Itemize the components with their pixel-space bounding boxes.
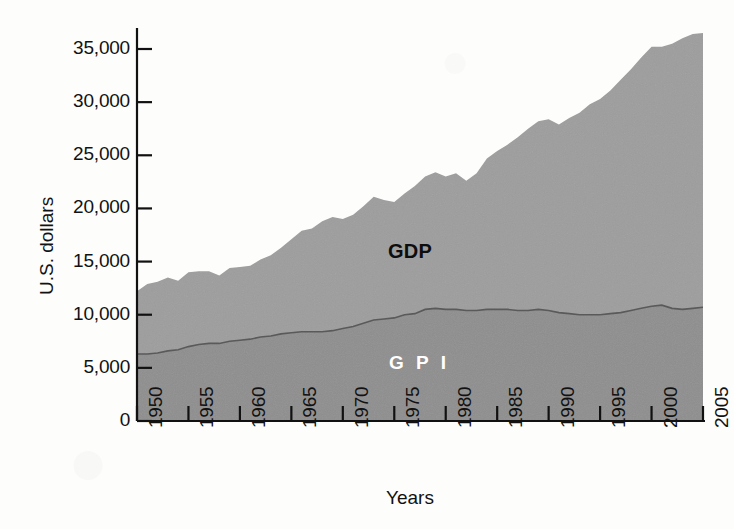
x-tick-label: 1995 (608, 387, 630, 428)
x-axis-title: Years (386, 487, 434, 509)
y-axis-title: U.S. dollars (36, 197, 58, 295)
x-tick-label: 1965 (299, 387, 321, 428)
chart-figure: 05,00010,00015,00020,00025,00030,00035,0… (0, 0, 734, 529)
x-tick-label: 2000 (660, 387, 682, 428)
y-tick-label: 25,000 (73, 143, 130, 165)
y-tick-label: 5,000 (83, 356, 130, 378)
y-tick-label: 30,000 (73, 90, 130, 112)
gpi-series-label: G P I (389, 352, 449, 374)
x-tick-label: 1955 (196, 387, 218, 428)
x-tick-label: 2005 (711, 387, 733, 428)
y-tick-label: 10,000 (73, 303, 130, 325)
y-tick-label: 35,000 (73, 37, 130, 59)
x-tick-label: 1950 (145, 387, 167, 428)
x-tick-label: 1980 (454, 387, 476, 428)
y-tick-label: 0 (120, 409, 130, 431)
x-tick-label: 1985 (505, 387, 527, 428)
y-tick-label: 20,000 (73, 196, 130, 218)
gdp-series-label: GDP (388, 240, 432, 263)
x-tick-label: 1975 (402, 387, 424, 428)
x-tick-label: 1970 (351, 387, 373, 428)
y-tick-label: 15,000 (73, 250, 130, 272)
x-tick-label: 1990 (557, 387, 579, 428)
x-tick-label: 1960 (248, 387, 270, 428)
